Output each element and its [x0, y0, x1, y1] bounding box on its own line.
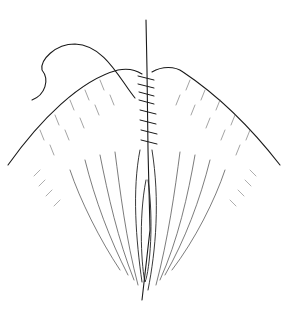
- right-flap-outline: [152, 68, 280, 166]
- suture-thread: [142, 20, 150, 300]
- thread-tail: [32, 44, 135, 100]
- flap-hatching: [40, 80, 250, 155]
- left-flap-outline: [8, 69, 142, 165]
- suture-illustration: [0, 0, 290, 320]
- lower-folds: [70, 152, 225, 285]
- illustration-canvas: [0, 0, 290, 320]
